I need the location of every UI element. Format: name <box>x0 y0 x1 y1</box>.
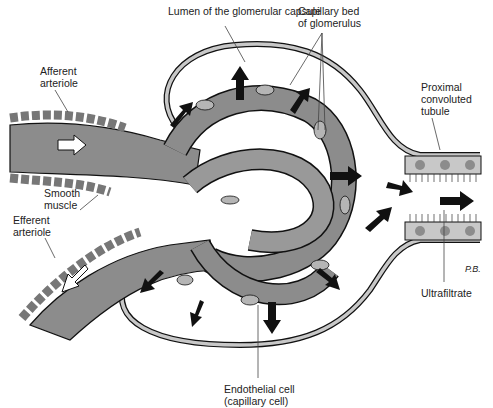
tubule-cells-top <box>405 156 481 174</box>
artist-signature: P.B. <box>465 264 481 274</box>
label-efferent-arteriole: Efferent arteriole <box>13 214 51 238</box>
label-capillary-bed: Capillary bed of glomerulus <box>298 5 361 29</box>
label-proximal-tubule: Proximal convoluted tubule <box>421 81 472 117</box>
label-ultrafiltrate: Ultrafiltrate <box>421 287 472 299</box>
tubule-cells-bottom <box>405 222 481 240</box>
label-afferent-arteriole: Afferent arteriole <box>40 65 78 89</box>
label-endothelial-cell: Endothelial cell (capillary cell) <box>224 383 295 407</box>
efferent-arteriole <box>30 240 215 340</box>
label-smooth-muscle: Smooth muscle <box>44 187 80 211</box>
